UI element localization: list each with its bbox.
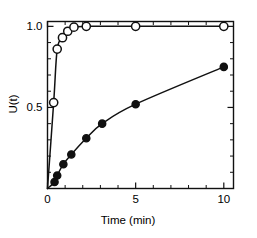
x-tick-label: 0 [44, 193, 50, 205]
x-axis-title: Time (min) [101, 214, 156, 226]
data-point-filled-circles-1 [54, 172, 61, 179]
data-point-filled-circles-5 [99, 120, 106, 127]
data-point-filled-circles-4 [83, 135, 90, 142]
chart-figure: 05100.51.0 Time (min) U(t) [0, 0, 257, 238]
y-tick-label: 0.5 [27, 101, 43, 113]
x-tick-label: 10 [217, 193, 230, 205]
data-point-open-circles-7 [220, 22, 228, 30]
chart-canvas: 05100.51.0 Time (min) U(t) [0, 0, 257, 238]
data-point-filled-circles-2 [60, 161, 67, 168]
y-tick-label: 1.0 [27, 20, 43, 32]
data-point-open-circles-4 [70, 23, 78, 31]
data-point-filled-circles-3 [68, 151, 75, 158]
data-point-open-circles-6 [132, 22, 140, 30]
x-tick-label: 5 [132, 193, 138, 205]
data-point-open-circles-1 [53, 45, 61, 53]
y-axis-title: U(t) [7, 94, 19, 113]
data-point-filled-circles-6 [132, 101, 139, 108]
data-point-open-circles-5 [82, 22, 90, 30]
data-point-filled-circles-7 [220, 63, 227, 70]
data-point-open-circles-0 [50, 98, 58, 106]
